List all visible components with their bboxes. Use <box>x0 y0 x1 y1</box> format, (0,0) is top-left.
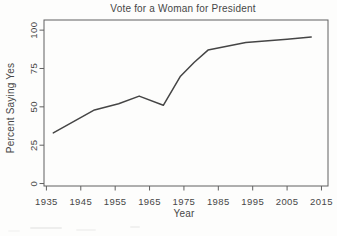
scan-artifact <box>8 230 20 232</box>
x-tick-label: 2015 <box>310 196 333 207</box>
line-chart: Vote for a Woman for President 193519451… <box>0 0 337 236</box>
plot-frame <box>44 20 328 186</box>
y-tick-label: 100 <box>29 22 40 39</box>
scanned-chart-page: Vote for a Woman for President 193519451… <box>0 0 337 236</box>
x-tick-label: 1945 <box>69 196 92 207</box>
x-axis-ticks: 193519451955196519751985199520052015 <box>35 186 333 207</box>
y-tick-label: 75 <box>29 63 40 74</box>
y-axis-ticks: 0255075100 <box>29 22 45 187</box>
data-series <box>53 37 311 133</box>
chart-title: Vote for a Woman for President <box>110 3 255 14</box>
x-tick-label: 1955 <box>104 196 127 207</box>
data-line <box>53 37 311 133</box>
scan-artifact <box>76 229 96 231</box>
scan-artifact <box>30 227 62 229</box>
x-tick-label: 1935 <box>35 196 58 207</box>
y-tick-label: 25 <box>29 140 40 151</box>
x-axis-title: Year <box>173 208 194 219</box>
y-axis-title: Percent Saying Yes <box>5 63 16 153</box>
scan-artifact <box>130 226 140 228</box>
y-tick-label: 50 <box>29 101 40 112</box>
x-tick-label: 1965 <box>138 196 161 207</box>
x-tick-label: 1985 <box>207 196 230 207</box>
x-tick-label: 2005 <box>276 196 299 207</box>
y-tick-label: 0 <box>29 181 40 187</box>
x-tick-label: 1995 <box>241 196 264 207</box>
x-tick-label: 1975 <box>173 196 196 207</box>
